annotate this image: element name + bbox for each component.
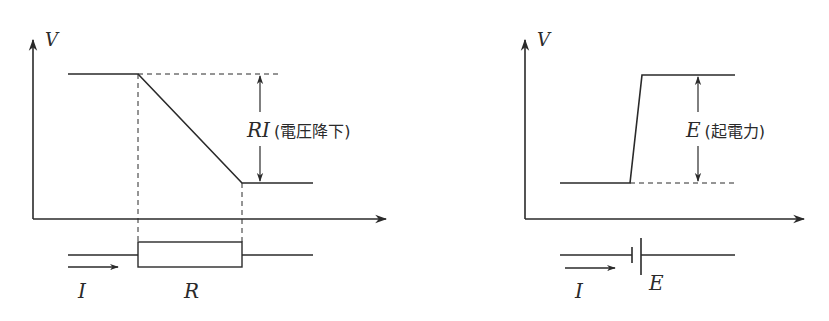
battery-diagram: V E(起電力) I E bbox=[525, 29, 804, 303]
resistor-symbol bbox=[138, 242, 242, 267]
voltage-drop-label: RI(電圧降下) bbox=[246, 118, 350, 142]
current-label: I bbox=[77, 279, 87, 303]
potential-diagrams: V RI(電圧降下) I R V bbox=[0, 0, 829, 321]
resistor-diagram: V RI(電圧降下) I R bbox=[33, 29, 386, 303]
current-label: I bbox=[574, 279, 584, 303]
emf-symbol-label: E bbox=[648, 271, 664, 295]
y-axis-label: V bbox=[45, 29, 60, 50]
emf-label: E(起電力) bbox=[685, 118, 765, 142]
resistance-label: R bbox=[183, 279, 199, 303]
y-axis-label: V bbox=[537, 29, 552, 50]
